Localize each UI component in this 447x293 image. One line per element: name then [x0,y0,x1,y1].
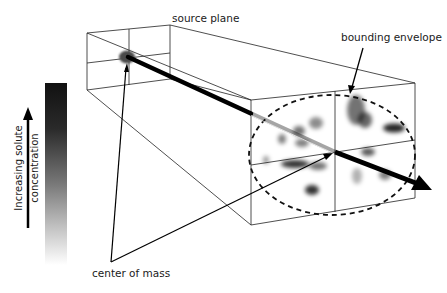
bounding-envelope-label: bounding envelope [341,31,442,43]
source-plane-label: source plane [172,12,239,24]
direction-beam [128,57,432,190]
center-of-mass-label: center of mass [92,267,170,279]
concentration-legend: Increasing solute concentration [13,83,67,265]
bounding-envelope [249,95,415,215]
concentration-gradient-bar [45,83,67,265]
bounding-envelope-pointer [348,48,363,94]
concentration-label-line1: Increasing solute [13,125,24,210]
pointer-arrowhead-icon [124,63,129,72]
concentration-label-line2: concentration [29,133,40,202]
target-plane [251,83,415,225]
pointer-arrowhead-icon [323,153,333,160]
diffusion-diagram: Increasing solute concentration [0,0,447,293]
